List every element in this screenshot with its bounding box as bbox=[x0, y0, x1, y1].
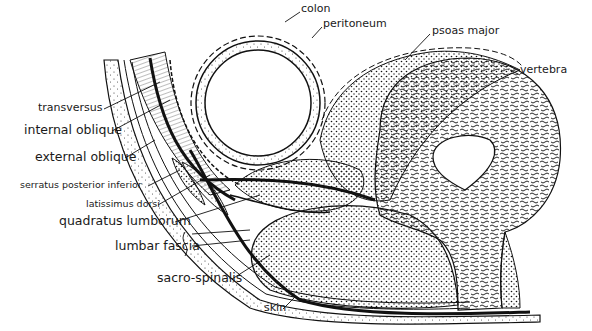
label-transversus: transversus bbox=[38, 102, 103, 113]
label-skin: skin bbox=[264, 302, 286, 313]
label-external-oblique: external oblique bbox=[35, 151, 136, 164]
label-psoas-major: psoas major bbox=[432, 25, 499, 36]
anatomy-diagram: colon peritoneum psoas major vertebra tr… bbox=[0, 0, 592, 331]
diagram-drawing bbox=[0, 0, 592, 331]
label-sacro-spinalis: sacro-spinalis bbox=[157, 272, 242, 285]
label-colon: colon bbox=[301, 3, 331, 14]
label-serratus-posterior-inferior: serratus posterior inferior bbox=[20, 180, 142, 190]
quadratus-lumborum-muscle bbox=[235, 159, 364, 211]
label-vertebra: vertebra bbox=[520, 64, 567, 75]
label-latissimus-dorsi: latissimus dorsi bbox=[86, 199, 160, 209]
label-quadratus-lumborum: quadratus lumborum bbox=[59, 215, 191, 228]
label-peritoneum: peritoneum bbox=[323, 18, 387, 29]
label-internal-oblique: internal oblique bbox=[24, 124, 122, 137]
colon-lumen bbox=[205, 50, 311, 156]
label-lumbar-fascia: lumbar fascia bbox=[115, 240, 200, 253]
